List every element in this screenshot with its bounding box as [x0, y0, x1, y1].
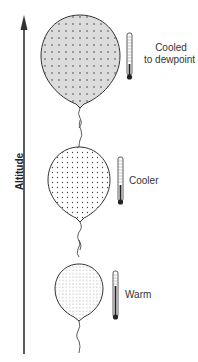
label-cooled: Cooled to dewpoint — [148, 42, 194, 66]
balloon-string — [77, 321, 80, 353]
thermometer-icon — [127, 33, 132, 80]
label-line1: Cooled — [148, 42, 194, 54]
label-line2: to dewpoint — [144, 54, 194, 66]
balloon-cooler — [48, 120, 110, 250]
label-cooler: Cooler — [129, 175, 158, 187]
balloon-cooled — [41, 15, 120, 128]
altitude-label: Altitude — [14, 147, 25, 197]
balloon-warm — [55, 240, 103, 353]
thermometer-icon — [118, 157, 123, 205]
thermometer-icon — [113, 271, 118, 320]
label-warm: Warm — [125, 289, 151, 301]
